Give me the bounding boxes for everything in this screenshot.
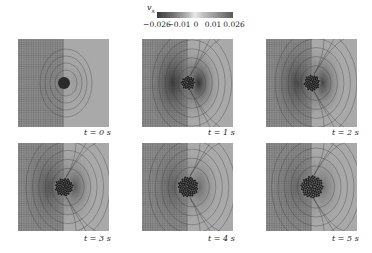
particle [184,177,186,179]
particle [182,182,184,184]
particle [308,194,310,196]
particle [308,176,310,178]
particle [196,188,198,190]
particle [190,77,192,79]
particle [184,182,186,184]
particle [179,191,181,193]
particle [183,87,185,89]
particle [57,191,59,193]
simulation-panel-t2 [266,39,357,127]
particle [179,189,181,191]
particle [194,192,196,194]
particle [316,193,318,195]
particle [314,176,316,178]
particle [61,181,63,183]
particle [306,77,308,79]
particle [189,185,191,187]
particle [314,181,316,183]
particle [314,85,316,87]
particle [312,175,314,177]
particle [66,193,68,195]
particle [312,197,314,199]
particle [55,184,57,186]
particle [320,191,322,193]
particle [316,191,318,193]
particle [315,87,317,89]
particle [309,77,311,79]
particle [66,189,68,191]
particle [188,88,190,90]
particle [57,187,59,189]
particle [60,184,62,186]
particle [184,184,186,186]
particle [58,193,60,195]
simulation-panel-t5 [266,143,357,231]
particle [303,181,305,183]
particle [314,83,316,85]
particle [313,185,315,187]
particle [71,186,73,188]
particle [183,189,185,191]
particle [72,185,74,187]
particle [60,194,62,196]
particle [59,191,61,193]
particle [181,81,183,83]
particle [314,86,316,88]
particle [190,86,192,88]
particle [184,80,186,82]
particle [64,188,66,190]
particle [305,85,307,87]
particle [307,195,309,197]
particle [309,180,311,182]
particle [320,180,322,182]
particle [314,193,316,195]
particle [318,185,320,187]
particle [307,88,309,90]
particle [58,180,60,182]
particle [61,189,63,191]
time-label: t = 1 s [208,128,235,137]
particle [178,186,180,188]
particle [305,193,307,195]
particle [305,180,307,182]
particle [181,83,183,85]
particle [196,185,198,187]
particle [193,190,195,192]
particle [189,195,191,197]
particle [187,76,189,78]
particle [312,188,314,190]
particle [317,182,319,184]
particle [181,188,183,190]
particle [312,192,314,194]
particle [68,182,70,184]
particle [55,187,57,189]
particle [188,192,190,194]
particle [310,189,312,191]
particle [321,188,323,190]
particle [304,185,306,187]
particle [192,193,194,195]
particle [307,178,309,180]
particle [308,184,310,186]
particle [59,189,61,191]
particle [181,189,183,191]
particle [307,189,309,191]
particle [66,183,68,185]
colorbar-tick: −0.01 [168,20,191,29]
particle [301,182,303,184]
particle [306,182,308,184]
particle [67,191,69,193]
particle [316,195,318,197]
particle [301,188,303,190]
particle [308,182,310,184]
particle [66,191,68,193]
particle [314,191,316,193]
particle [304,191,306,193]
particle [64,183,66,185]
time-label: t = 0 s [84,128,111,137]
particle [185,181,187,183]
simulation-panel-t3 [18,143,109,231]
particle [307,193,309,195]
particle [183,180,185,182]
particle [318,193,320,195]
